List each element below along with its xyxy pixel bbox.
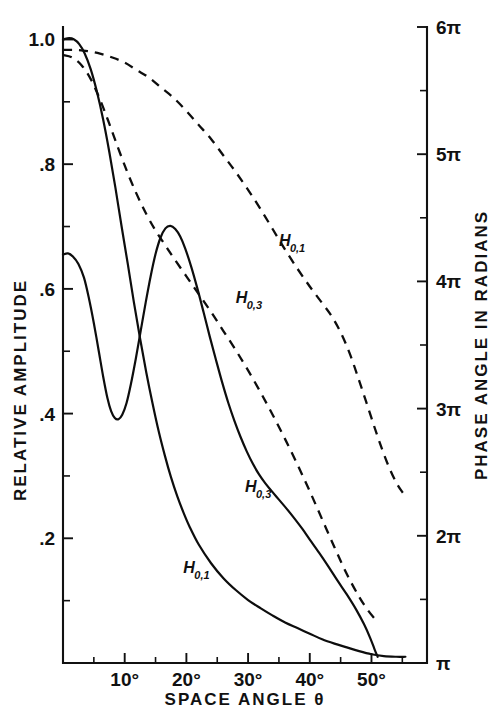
- axes: [63, 27, 427, 663]
- curve-label-group-1: H0,3: [245, 478, 271, 500]
- plot-frame: [63, 27, 427, 663]
- bottom-axis-ticks: [94, 653, 402, 663]
- right-tick-label-0: 6π: [436, 17, 462, 38]
- curve-label-sub-3: 0,3: [247, 299, 262, 311]
- right-axis-ticks: [417, 27, 427, 663]
- curve-label-group-3: H0,3: [236, 289, 262, 311]
- left-axis-tick-labels: 1.0.8.6.4.2: [29, 29, 56, 549]
- figure-container: 1.0.8.6.4.2 6π5π4π3π2ππ 10°20°30°40°50° …: [0, 0, 503, 722]
- curve-2: [63, 50, 404, 494]
- left-tick-label-4: .2: [39, 528, 55, 549]
- bottom-axis-tick-labels: 10°20°30°40°50°: [110, 669, 386, 690]
- curve-label-sub-0: 0,1: [194, 569, 209, 581]
- curve-1: [63, 226, 378, 657]
- right-tick-label-5: π: [436, 653, 451, 674]
- left-tick-label-0: 1.0: [29, 29, 55, 50]
- right-axis-tick-labels: 6π5π4π3π2ππ: [436, 17, 462, 674]
- curve-labels: H0,1H0,3H0,1H0,3: [183, 232, 305, 581]
- bottom-tick-label-0: 10°: [110, 669, 139, 690]
- y-axis-title: RELATIVE AMPLITUDE: [11, 279, 30, 501]
- left-axis-ticks: [63, 39, 73, 600]
- right-tick-label-4: 2π: [436, 526, 462, 547]
- curve-3: [63, 55, 375, 619]
- bottom-tick-label-2: 30°: [234, 669, 263, 690]
- bottom-tick-label-1: 20°: [172, 669, 201, 690]
- phase-amplitude-chart: 1.0.8.6.4.2 6π5π4π3π2ππ 10°20°30°40°50° …: [0, 0, 503, 722]
- left-tick-label-3: .4: [39, 404, 55, 425]
- right-tick-label-1: 5π: [436, 144, 462, 165]
- curve-label-sub-1: 0,3: [256, 488, 271, 500]
- right-tick-label-2: 4π: [436, 271, 462, 292]
- curve-label-sub-2: 0,1: [290, 242, 305, 254]
- left-tick-label-2: .6: [39, 279, 55, 300]
- bottom-tick-label-4: 50°: [357, 669, 386, 690]
- curve-label-group-2: H0,1: [279, 232, 305, 254]
- right-tick-label-3: 3π: [436, 399, 462, 420]
- data-curves: [63, 38, 405, 657]
- left-tick-label-1: .8: [39, 154, 55, 175]
- curve-label-group-0: H0,1: [183, 559, 209, 581]
- y2-axis-title: PHASE ANGLE IN RADIANS: [472, 210, 491, 480]
- x-axis-title: SPACE ANGLE θ: [165, 690, 326, 709]
- bottom-tick-label-3: 40°: [295, 669, 324, 690]
